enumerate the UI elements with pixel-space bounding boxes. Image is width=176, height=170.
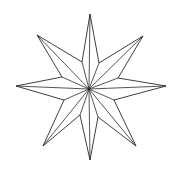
star-figure: Eight-pointed faceted star line drawing: [0, 0, 176, 170]
star-icon: [0, 0, 176, 170]
